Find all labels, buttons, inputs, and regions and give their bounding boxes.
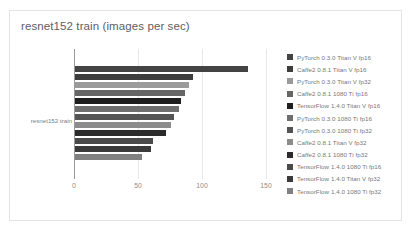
legend-label: Caffe2 0.8.1 1080 Ti fp32 bbox=[297, 151, 368, 158]
legend-swatch-icon bbox=[287, 91, 293, 97]
legend-swatch-icon bbox=[287, 103, 293, 109]
legend-swatch-icon bbox=[287, 188, 293, 194]
legend-label: PyTorch 0.3.0 1080 Ti fp16 bbox=[297, 115, 372, 122]
bar-4[interactable] bbox=[75, 98, 181, 104]
bar-9[interactable] bbox=[75, 138, 153, 144]
x-tick-100: 100 bbox=[196, 182, 207, 189]
y-axis-category-label: resnet152 train bbox=[16, 117, 72, 124]
legend-swatch-icon bbox=[287, 139, 293, 145]
bar-3[interactable] bbox=[75, 90, 185, 96]
bar-row bbox=[75, 98, 267, 106]
legend-label: PyTorch 0.3.0 Titan V fp16 bbox=[297, 54, 371, 61]
legend-swatch-icon bbox=[287, 164, 293, 170]
bar-row bbox=[75, 122, 267, 130]
chart-title: resnet152 train (images per sec) bbox=[21, 20, 190, 32]
legend-label: PyTorch 0.3.0 Titan V fp32 bbox=[297, 78, 371, 85]
bar-row bbox=[75, 66, 267, 74]
bar-5[interactable] bbox=[75, 106, 179, 112]
legend-swatch-icon bbox=[287, 66, 293, 72]
legend-item-10[interactable]: TensorFlow 1.4.0 Titan V fp32 bbox=[287, 173, 403, 185]
bar-6[interactable] bbox=[75, 114, 174, 120]
bar-row bbox=[75, 146, 267, 154]
plot-area: resnet152 train 050100150 bbox=[10, 45, 278, 213]
plot-canvas bbox=[74, 49, 267, 179]
legend-label: PyTorch 0.3.0 1080 Ti fp32 bbox=[297, 127, 372, 134]
bar-11[interactable] bbox=[75, 154, 142, 160]
bar-2[interactable] bbox=[75, 82, 189, 88]
legend-item-8[interactable]: Caffe2 0.8.1 1080 Ti fp32 bbox=[287, 149, 403, 161]
legend-item-2[interactable]: PyTorch 0.3.0 Titan V fp32 bbox=[287, 75, 403, 87]
legend-swatch-icon bbox=[287, 54, 293, 60]
bar-row bbox=[75, 154, 267, 162]
bar-1[interactable] bbox=[75, 74, 193, 80]
legend-swatch-icon bbox=[287, 115, 293, 121]
legend-label: TensorFlow 1.4.0 Titan V fp32 bbox=[297, 175, 380, 182]
bar-8[interactable] bbox=[75, 130, 166, 136]
legend-label: TensorFlow 1.4.0 1080 Ti fp16 bbox=[297, 163, 381, 170]
bar-row bbox=[75, 130, 267, 138]
x-axis-tick-labels: 050100150 bbox=[74, 182, 267, 196]
bar-row bbox=[75, 114, 267, 122]
legend-item-0[interactable]: PyTorch 0.3.0 Titan V fp16 bbox=[287, 51, 403, 63]
legend-label: Caffe2 0.8.1 Titan V fp32 bbox=[297, 139, 367, 146]
legend-swatch-icon bbox=[287, 78, 293, 84]
legend-item-7[interactable]: Caffe2 0.8.1 Titan V fp32 bbox=[287, 136, 403, 148]
legend-item-3[interactable]: Caffe2 0.8.1 1080 Ti fp16 bbox=[287, 88, 403, 100]
bar-group bbox=[75, 66, 267, 162]
bar-row bbox=[75, 82, 267, 90]
bar-0[interactable] bbox=[75, 66, 248, 72]
legend-item-9[interactable]: TensorFlow 1.4.0 1080 Ti fp16 bbox=[287, 161, 403, 173]
legend-item-5[interactable]: PyTorch 0.3.0 1080 Ti fp16 bbox=[287, 112, 403, 124]
legend-label: Caffe2 0.8.1 Titan V fp16 bbox=[297, 66, 367, 73]
legend-item-4[interactable]: TensorFlow 1.4.0 Titan V fp16 bbox=[287, 100, 403, 112]
legend-label: Caffe2 0.8.1 1080 Ti fp16 bbox=[297, 90, 368, 97]
legend-item-6[interactable]: PyTorch 0.3.0 1080 Ti fp32 bbox=[287, 124, 403, 136]
legend-item-1[interactable]: Caffe2 0.8.1 Titan V fp16 bbox=[287, 63, 403, 75]
legend-swatch-icon bbox=[287, 152, 293, 158]
bar-row bbox=[75, 74, 267, 82]
x-tick-50: 50 bbox=[134, 182, 142, 189]
bar-row bbox=[75, 90, 267, 98]
legend-label: TensorFlow 1.4.0 Titan V fp16 bbox=[297, 102, 380, 109]
chart-card: resnet152 train (images per sec) resnet1… bbox=[9, 10, 402, 221]
chart-legend: PyTorch 0.3.0 Titan V fp16Caffe2 0.8.1 T… bbox=[287, 51, 403, 197]
legend-swatch-icon bbox=[287, 127, 293, 133]
bar-row bbox=[75, 138, 267, 146]
bar-row bbox=[75, 106, 267, 114]
bar-7[interactable] bbox=[75, 122, 171, 128]
bar-10[interactable] bbox=[75, 146, 151, 152]
x-tick-0: 0 bbox=[72, 182, 76, 189]
legend-swatch-icon bbox=[287, 176, 293, 182]
x-tick-150: 150 bbox=[260, 182, 271, 189]
legend-label: TensorFlow 1.4.0 1080 Ti fp32 bbox=[297, 188, 381, 195]
legend-item-11[interactable]: TensorFlow 1.4.0 1080 Ti fp32 bbox=[287, 185, 403, 197]
